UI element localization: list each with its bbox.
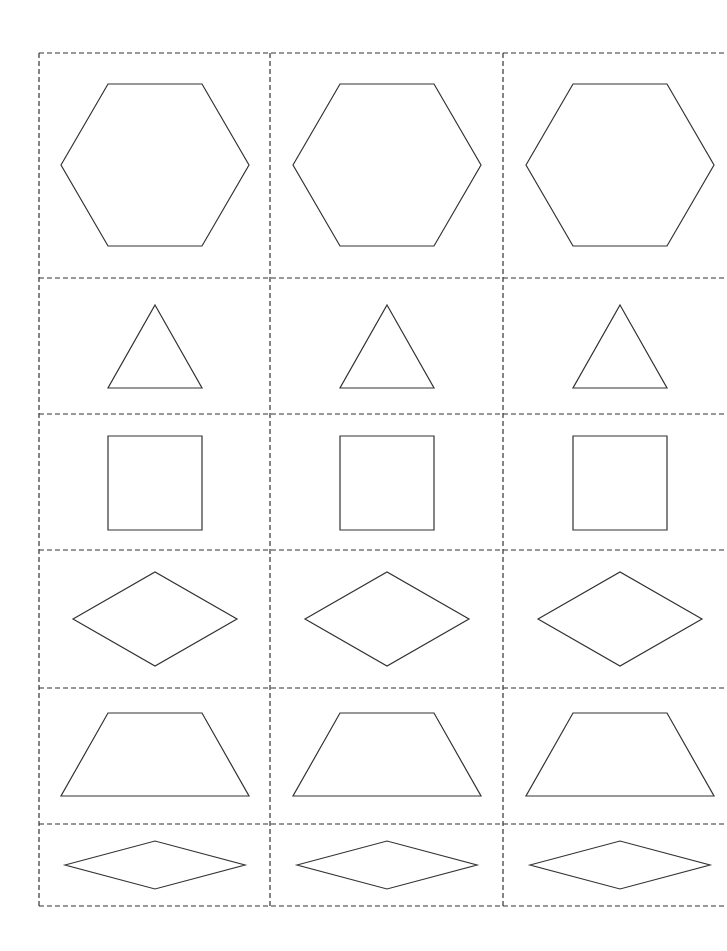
triangle-shape [108, 305, 202, 388]
trapezoid-shape [526, 713, 714, 796]
square-shape [340, 436, 434, 530]
thin-rhombus-shape [297, 841, 477, 889]
thin-rhombus-shape [65, 841, 245, 889]
rhombus-shape [305, 572, 469, 666]
hexagon-shape [61, 84, 249, 246]
hexagon-shape [293, 84, 481, 246]
square-shape [573, 436, 667, 530]
triangle-shape [573, 305, 667, 388]
trapezoid-shape [293, 713, 481, 796]
cutout-sheet [0, 0, 727, 951]
rhombus-shape [538, 572, 702, 666]
trapezoid-shape [61, 713, 249, 796]
square-shape [108, 436, 202, 530]
hexagon-shape [526, 84, 714, 246]
rhombus-shape [73, 572, 237, 666]
triangle-shape [340, 305, 434, 388]
thin-rhombus-shape [530, 841, 710, 889]
